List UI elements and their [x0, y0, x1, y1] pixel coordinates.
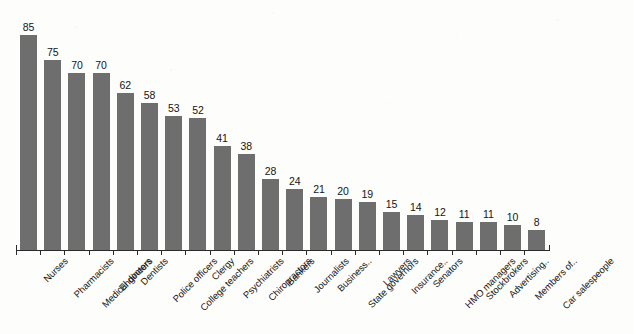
bar [117, 93, 134, 250]
bar [480, 222, 497, 250]
x-axis-tick [137, 250, 138, 255]
bar [310, 197, 327, 250]
bar-value-label: 53 [168, 103, 179, 114]
x-axis-tick [89, 250, 90, 255]
category-label: Nurses [41, 256, 69, 284]
bar-value-label: 14 [410, 202, 421, 213]
x-axis-tick [234, 250, 235, 255]
bar [262, 179, 279, 250]
bar-group: 10 [504, 8, 521, 250]
x-axis-tick [524, 250, 525, 255]
bar [238, 154, 255, 250]
bar [214, 146, 231, 250]
bar-group: 75 [44, 8, 61, 250]
bar-value-label: 20 [337, 186, 348, 197]
bar-group: 70 [93, 8, 110, 250]
bar-value-label: 11 [483, 209, 494, 220]
bar-group: 24 [286, 8, 303, 250]
x-axis-tick [331, 250, 332, 255]
bar-value-label: 85 [23, 22, 34, 33]
bar-group: 58 [141, 8, 158, 250]
x-axis-tick [113, 250, 114, 255]
bar-value-label: 12 [434, 207, 445, 218]
bar-group: 19 [359, 8, 376, 250]
bar-group: 11 [480, 8, 497, 250]
bar-group: 53 [165, 8, 182, 250]
bar-chart: 8575707062585352413828242120191514121111… [0, 0, 634, 334]
x-axis-tick [258, 250, 259, 255]
bar-value-label: 11 [459, 209, 470, 220]
bar-group: 52 [189, 8, 206, 250]
bar-group: 38 [238, 8, 255, 250]
bar-group: 62 [117, 8, 134, 250]
bar-value-label: 41 [216, 133, 227, 144]
bar [68, 73, 85, 250]
x-axis-labels: NursesPharmacistsMedical doctorsEngineer… [0, 256, 634, 334]
x-axis-tick [282, 250, 283, 255]
bar [44, 60, 61, 250]
bar [20, 35, 37, 250]
x-axis-tick [306, 250, 307, 255]
bar-value-label: 70 [95, 60, 106, 71]
bar [383, 212, 400, 250]
x-axis-tick [210, 250, 211, 255]
bar-group: 14 [407, 8, 424, 250]
bar [286, 189, 303, 250]
bar [504, 225, 521, 250]
bar [431, 220, 448, 250]
bar [528, 230, 545, 250]
x-axis-right-cap [549, 245, 550, 251]
bar-group: 85 [20, 8, 37, 250]
plot-area: 8575707062585352413828242120191514121111… [16, 8, 616, 250]
bar-value-label: 19 [362, 189, 373, 200]
x-axis-tick [403, 250, 404, 255]
bar-value-label: 8 [534, 217, 540, 228]
x-axis-tick [16, 250, 17, 255]
bar-group: 11 [456, 8, 473, 250]
x-axis-tick [161, 250, 162, 255]
bar-value-label: 75 [47, 47, 58, 58]
bar-group: 20 [335, 8, 352, 250]
x-axis-tick [40, 250, 41, 255]
x-axis-tick [476, 250, 477, 255]
bar-value-label: 28 [265, 166, 276, 177]
bar-value-label: 62 [120, 80, 131, 91]
x-axis-tick [500, 250, 501, 255]
x-axis-tick [185, 250, 186, 255]
bar-value-label: 70 [71, 60, 82, 71]
bar [407, 215, 424, 250]
bar [335, 199, 352, 250]
x-axis-tick [355, 250, 356, 255]
bar-value-label: 15 [386, 199, 397, 210]
bar-group: 12 [431, 8, 448, 250]
bar-group: 15 [383, 8, 400, 250]
x-axis-tick [64, 250, 65, 255]
bar-group: 28 [262, 8, 279, 250]
bar-group: 70 [68, 8, 85, 250]
bar-group: 21 [310, 8, 327, 250]
x-axis-tick [427, 250, 428, 255]
bar-group: 41 [214, 8, 231, 250]
bar [189, 118, 206, 250]
bar-value-label: 52 [192, 105, 203, 116]
x-axis-tick [379, 250, 380, 255]
bar-value-label: 21 [313, 184, 324, 195]
bar [141, 103, 158, 250]
bar [165, 116, 182, 250]
x-axis-tick [452, 250, 453, 255]
bar [359, 202, 376, 250]
bar [456, 222, 473, 250]
bar-value-label: 58 [144, 90, 155, 101]
bar-value-label: 10 [507, 212, 518, 223]
bar-value-label: 38 [241, 141, 252, 152]
bar-value-label: 24 [289, 176, 300, 187]
bar-group: 8 [528, 8, 545, 250]
bar [93, 73, 110, 250]
